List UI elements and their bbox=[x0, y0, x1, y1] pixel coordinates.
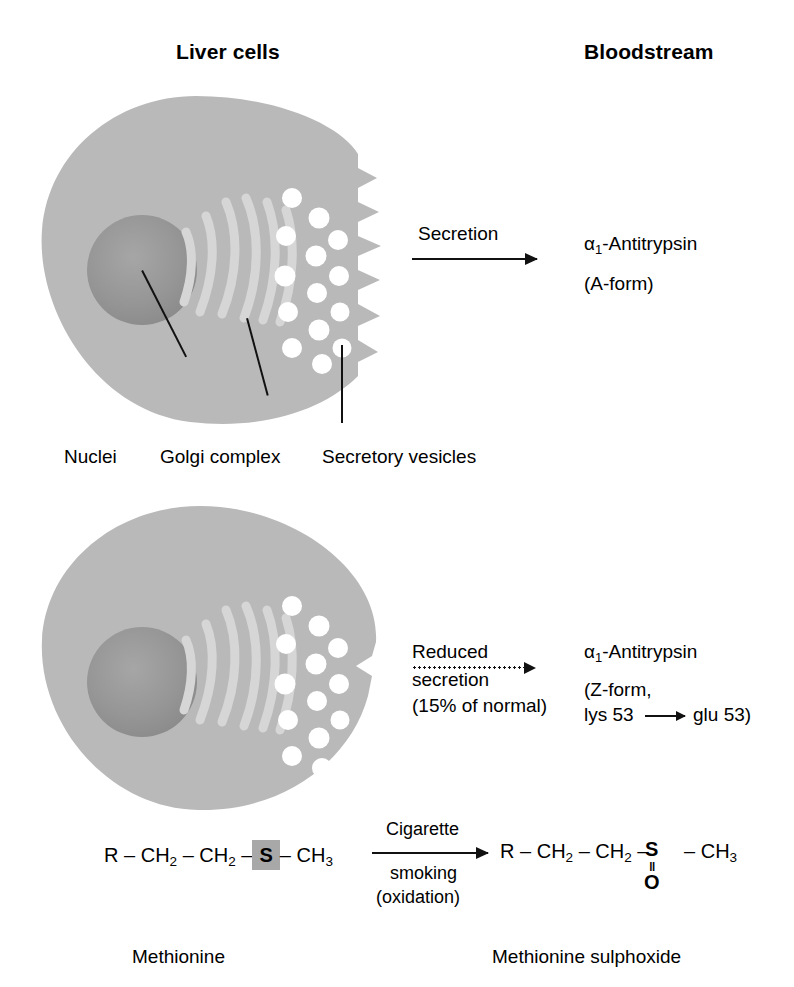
product-ch3: CH bbox=[701, 840, 730, 862]
product-formula: R – CH2 – CH2 – – CH3 bbox=[500, 840, 737, 865]
reactant-ch2-b-sub: 2 bbox=[228, 854, 236, 869]
reactant-ch2-a: CH bbox=[141, 844, 170, 866]
mutation-arrow bbox=[645, 715, 685, 717]
label-golgi-complex: Golgi complex bbox=[160, 445, 280, 469]
leader-line-vesicles bbox=[341, 345, 343, 423]
sulphur-atom: S bbox=[645, 838, 658, 861]
product-deficient-name: α1-Antitrypsin bbox=[584, 640, 697, 666]
reduced-secretion-line1: Reduced bbox=[412, 640, 488, 664]
reactant-ch3-sub: 3 bbox=[325, 854, 333, 869]
reactant-ch3: CH bbox=[296, 844, 325, 866]
bond-dash: – bbox=[520, 840, 531, 862]
secretion-arrow-label: Secretion bbox=[418, 222, 498, 246]
label-secretory-vesicles: Secretory vesicles bbox=[322, 445, 476, 469]
caption-methionine-sulphoxide: Methionine sulphoxide bbox=[492, 945, 681, 969]
product-r: R bbox=[500, 840, 514, 862]
double-bond-symbol: ‖ bbox=[649, 862, 654, 871]
caption-methionine: Methionine bbox=[132, 945, 225, 969]
product-normal-name: α1-Antitrypsin bbox=[584, 232, 697, 258]
product-ch2-a: CH bbox=[537, 840, 566, 862]
alpha-symbol: α bbox=[584, 233, 595, 254]
bond-dash: – bbox=[183, 844, 194, 866]
sulphur-atom-highlight: S bbox=[252, 840, 279, 870]
antitrypsin-text: -Antitrypsin bbox=[602, 233, 697, 254]
product-normal-form: (A-form) bbox=[584, 272, 654, 296]
reactant-ch2-a-sub: 2 bbox=[170, 854, 178, 869]
product-deficient-form: (Z-form, bbox=[584, 678, 652, 702]
label-nuclei: Nuclei bbox=[64, 445, 117, 469]
nucleus-deficient bbox=[87, 627, 197, 737]
product-ch2-b-sub: 2 bbox=[624, 850, 632, 865]
sulphoxide-group-highlight: S ‖ O bbox=[637, 833, 667, 900]
column-header-liver-cells: Liver cells bbox=[176, 40, 280, 64]
reaction-condition-below-2: (oxidation) bbox=[376, 886, 460, 909]
bond-dash: – bbox=[280, 844, 291, 866]
reactant-r: R bbox=[104, 844, 118, 866]
product-ch2-a-sub: 2 bbox=[566, 850, 574, 865]
reactant-ch2-b: CH bbox=[199, 844, 228, 866]
reduced-secretion-line2: secretion bbox=[412, 668, 489, 692]
bond-dash: – bbox=[684, 840, 695, 862]
reaction-arrow bbox=[372, 852, 488, 854]
figure-canvas: Liver cells Bloodstream bbox=[0, 0, 794, 987]
bond-dash: – bbox=[579, 840, 590, 862]
reaction-condition-above: Cigarette bbox=[386, 818, 459, 841]
oxygen-atom: O bbox=[644, 871, 660, 894]
mutation-to: glu 53) bbox=[693, 703, 751, 727]
alpha-symbol: α bbox=[584, 641, 595, 662]
column-header-bloodstream: Bloodstream bbox=[584, 40, 713, 64]
normal-liver-cell-diagram bbox=[20, 90, 420, 440]
reduced-secretion-line3: (15% of normal) bbox=[412, 694, 547, 718]
antitrypsin-text: -Antitrypsin bbox=[602, 641, 697, 662]
reaction-condition-below-1: smoking bbox=[390, 862, 457, 885]
bond-dash: – bbox=[124, 844, 135, 866]
bond-dash: – bbox=[241, 844, 252, 866]
deficient-liver-cell-diagram bbox=[20, 500, 420, 820]
product-ch2-b: CH bbox=[595, 840, 624, 862]
reactant-formula: R – CH2 – CH2 –S– CH3 bbox=[104, 840, 333, 870]
product-ch3-sub: 3 bbox=[730, 850, 738, 865]
mutation-from: lys 53 bbox=[584, 703, 634, 727]
secretion-arrow bbox=[412, 258, 537, 260]
